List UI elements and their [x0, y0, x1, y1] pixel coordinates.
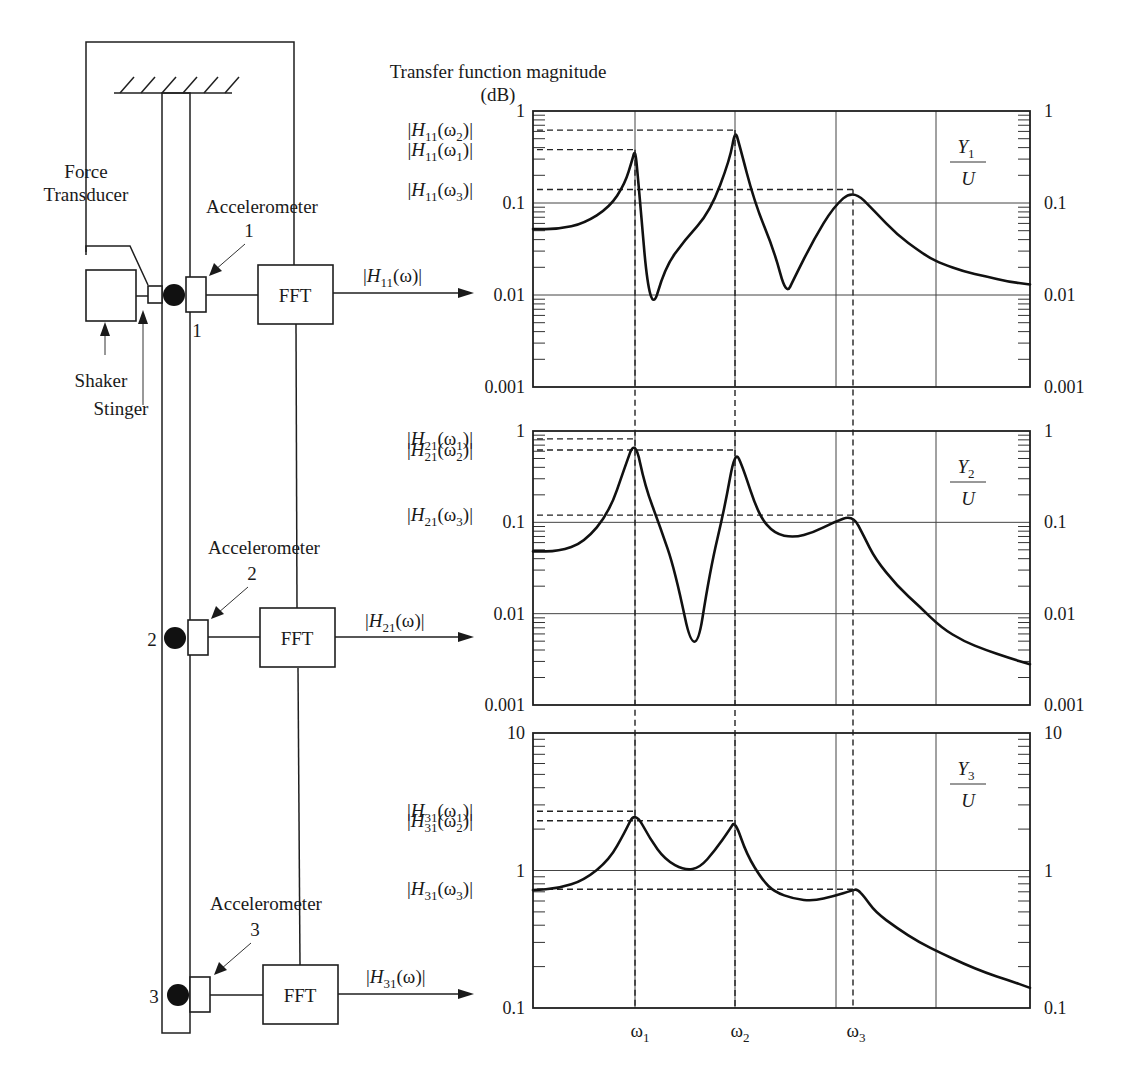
y-tick-right: 0.1 [1044, 193, 1067, 213]
pointer-arrow-icon [211, 606, 224, 619]
plot-1: 110.10.10.010.010.0010.001|H11(ω2)||H11(… [407, 101, 1084, 397]
y-tick-left: 0.1 [503, 512, 526, 532]
fft-1-label: FFT [279, 285, 312, 306]
y-tick-right: 1 [1044, 861, 1053, 881]
accelerometer-1-label: Accelerometer [206, 196, 318, 217]
y-tick-right: 0.01 [1044, 285, 1076, 305]
accelerometer-1-chain: 1 Accelerometer 1 FFT |H11(ω)| [163, 196, 474, 341]
omega-reference-lines [635, 130, 853, 1008]
peak-value-label: |H11(ω1)| [407, 139, 473, 164]
transfer-function-plots: 110.10.10.010.010.0010.001|H11(ω2)||H11(… [407, 101, 1085, 1018]
y-tick-right: 10 [1044, 723, 1062, 743]
y-tick-right: 0.01 [1044, 604, 1076, 624]
ratio-denominator: U [961, 168, 976, 189]
peak-value-label: |H31(ω3)| [407, 878, 473, 903]
frf-curve [533, 135, 1030, 300]
ratio-numerator: Y3 [957, 758, 974, 783]
output-arrow-icon [458, 288, 474, 298]
accelerometer-2-number: 2 [247, 563, 257, 584]
omega-1-label: ω1 [630, 1020, 649, 1045]
y-tick-left: 1 [516, 421, 525, 441]
force-transducer-label-line1: Force [64, 161, 107, 182]
shaker [86, 270, 136, 321]
frf-curve [533, 448, 1030, 664]
y-tick-left: 1 [516, 861, 525, 881]
ratio-numerator: Y1 [957, 136, 974, 161]
omega-2-label: ω2 [730, 1020, 749, 1045]
y-tick-left: 10 [507, 723, 525, 743]
pointer-arrow-icon [209, 263, 222, 276]
stinger-arrow-icon [138, 310, 148, 324]
plot-3: 1010110.10.1|H31(ω1)||H31(ω2)||H31(ω3)|Y… [407, 723, 1067, 1018]
frf-curve [533, 817, 1030, 988]
h31-output-label: |H31(ω)| [366, 966, 426, 991]
accelerometer-1 [186, 277, 206, 312]
force-bus-2 [298, 668, 300, 965]
chart-title-line2: (dB) [481, 84, 516, 106]
omega-3-label: ω3 [846, 1020, 865, 1045]
accelerometer-2 [188, 620, 208, 655]
point-3-label: 3 [149, 986, 159, 1007]
ground-hatch-icon [114, 77, 239, 93]
peak-value-label: |H21(ω2)| [407, 439, 473, 464]
peak-value-label: |H11(ω3)| [407, 179, 473, 204]
y-tick-left: 1 [516, 101, 525, 121]
force-bus-1 [296, 324, 297, 608]
y-tick-right: 1 [1044, 421, 1053, 441]
y-tick-right: 0.1 [1044, 512, 1067, 532]
y-tick-right: 0.001 [1044, 377, 1085, 397]
point-1-label: 1 [192, 320, 202, 341]
ratio-denominator: U [961, 790, 976, 811]
h21-output-label: |H21(ω)| [365, 610, 425, 635]
x-axis-labels: ω1 ω2 ω3 [630, 1020, 865, 1045]
shaker-arrow-icon [100, 322, 110, 336]
y-tick-left: 0.1 [503, 193, 526, 213]
y-tick-right: 0.001 [1044, 695, 1085, 715]
accelerometer-3-number: 3 [250, 919, 260, 940]
fft-2-label: FFT [281, 628, 314, 649]
y-tick-left: 0.001 [485, 695, 526, 715]
measurement-point-3-icon [167, 984, 189, 1006]
accelerometer-3-chain: 3 Accelerometer 3 FFT |H31(ω)| [149, 893, 474, 1024]
accelerometer-3-label: Accelerometer [210, 893, 322, 914]
accelerometer-2-label: Accelerometer [208, 537, 320, 558]
plot-frame [533, 111, 1030, 387]
plot-frame [533, 431, 1030, 705]
cantilever-beam [162, 93, 190, 1033]
y-tick-right: 1 [1044, 101, 1053, 121]
y-tick-left: 0.01 [494, 285, 526, 305]
accelerometer-2-chain: 2 Accelerometer 2 FFT |H21(ω)| [147, 537, 474, 667]
output-arrow-icon [458, 632, 474, 642]
pointer-arrow-icon [214, 962, 227, 975]
peak-value-label: |H31(ω2)| [407, 810, 473, 835]
output-arrow-icon [458, 989, 474, 999]
y-tick-left: 0.1 [503, 998, 526, 1018]
fft-3-label: FFT [284, 985, 317, 1006]
measurement-point-1-icon [163, 284, 185, 306]
accelerometer-1-number: 1 [244, 220, 254, 241]
peak-value-label: |H21(ω3)| [407, 504, 473, 529]
y-tick-left: 0.01 [494, 604, 526, 624]
shaker-label: Shaker [75, 370, 128, 391]
chart-title-line1: Transfer function magnitude [390, 61, 607, 82]
force-transducer [148, 286, 162, 303]
ratio-numerator: Y2 [957, 456, 974, 481]
force-transducer-label-line2: Transducer [44, 184, 129, 205]
h11-output-label: |H11(ω)| [363, 265, 422, 290]
stinger-label: Stinger [94, 398, 150, 419]
figure: Force Transducer Shaker Stinger 1 Accele… [0, 0, 1126, 1072]
measurement-point-2-icon [164, 627, 186, 649]
y-tick-left: 0.001 [485, 377, 526, 397]
accelerometer-3 [190, 977, 210, 1012]
y-tick-right: 0.1 [1044, 998, 1067, 1018]
point-2-label: 2 [147, 629, 157, 650]
plot-2: 110.10.10.010.010.0010.001|H21(ω1)||H21(… [407, 421, 1085, 715]
ratio-denominator: U [961, 488, 976, 509]
